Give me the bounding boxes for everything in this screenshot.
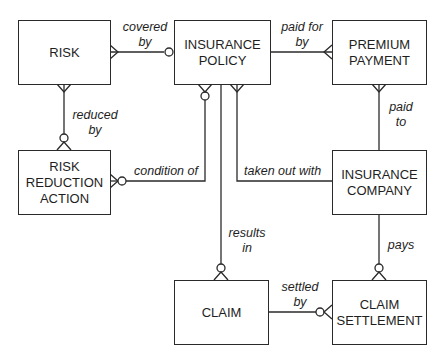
entity-insurance-policy: INSURANCE POLICY xyxy=(174,20,271,85)
entity-risk: RISK xyxy=(18,20,111,85)
entity-insurance-company: INSURANCE COMPANY xyxy=(332,150,427,215)
rel-label-results-in: results in xyxy=(226,226,268,256)
rel-label-reduced-by: reduced by xyxy=(70,108,120,138)
rel-label-taken-out-with: taken out with xyxy=(244,164,330,179)
rel-label-paid-for-by: paid for by xyxy=(276,20,328,50)
rel-label-paid-to: paid to xyxy=(384,100,418,130)
entity-claim: CLAIM xyxy=(174,280,269,345)
rel-label-covered-by: covered by xyxy=(120,20,170,50)
rel-label-settled-by: settled by xyxy=(278,280,322,310)
entity-risk-reduction-action: RISK REDUCTION ACTION xyxy=(18,150,111,215)
rel-label-pays: pays xyxy=(384,238,418,253)
entity-premium-payment: PREMIUM PAYMENT xyxy=(332,20,427,85)
rel-label-condition-of: condition of xyxy=(134,164,204,179)
entity-claim-settlement: CLAIM SETTLEMENT xyxy=(332,280,427,345)
